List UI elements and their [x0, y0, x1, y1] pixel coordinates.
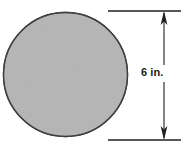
circle-texture-overlay — [4, 13, 127, 136]
dimension-label: 6 in. — [141, 67, 164, 78]
geometry-figure: 6 in. — [0, 0, 188, 149]
